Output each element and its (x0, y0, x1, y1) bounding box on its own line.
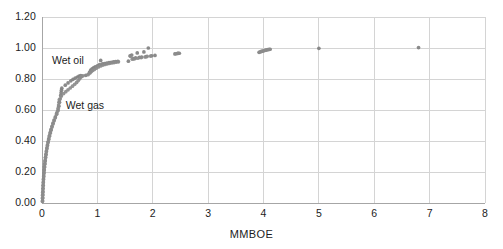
data-point (417, 46, 421, 50)
data-point (176, 51, 180, 55)
data-point (127, 59, 131, 63)
x-axis-tick-label: 5 (310, 207, 328, 219)
data-point (45, 147, 49, 151)
x-axis-tick-label: 1 (88, 207, 106, 219)
y-axis-tick-label: 1.00 (2, 41, 36, 53)
y-axis-tick-label: 0.80 (2, 72, 36, 84)
x-axis-tick-label: 7 (421, 207, 439, 219)
data-point (145, 55, 149, 59)
data-point (81, 74, 85, 78)
y-axis-tick-label: 0.40 (2, 134, 36, 146)
footer-caption-fragment (0, 243, 503, 249)
data-point (44, 153, 48, 157)
data-point (45, 150, 49, 154)
x-axis-tick-label: 0 (33, 207, 51, 219)
data-point (267, 48, 271, 52)
annotation-wet-gas: Wet gas (66, 99, 104, 111)
data-point (139, 56, 143, 60)
data-point (47, 138, 51, 142)
y-axis-tick-label: 0.20 (2, 165, 36, 177)
data-point (142, 50, 146, 54)
data-point (146, 46, 150, 50)
data-point (46, 144, 50, 148)
scatter-chart: 0.000.200.400.600.801.001.20 012345678 W… (0, 0, 503, 249)
data-point (317, 46, 321, 50)
x-axis-title: MMBOE (0, 228, 503, 240)
data-point (57, 98, 61, 102)
data-point (117, 60, 121, 64)
data-point (149, 54, 153, 58)
series-wet-gas (41, 48, 271, 204)
y-axis-tick-label: 0.60 (2, 103, 36, 115)
data-point (99, 59, 103, 63)
y-axis-tick-label: 1.20 (2, 10, 36, 22)
annotation-wet-oil: Wet oil (52, 54, 84, 66)
data-point (153, 54, 157, 58)
x-axis-tick-label: 8 (476, 207, 494, 219)
data-point (46, 141, 50, 145)
data-point (44, 156, 48, 160)
x-axis-tick-label: 2 (144, 207, 162, 219)
y-axis-tick-label: 0.00 (2, 196, 36, 208)
data-point (48, 135, 52, 139)
data-point (135, 51, 139, 55)
x-axis-tick-label: 4 (255, 207, 273, 219)
x-axis-tick-label: 6 (365, 207, 383, 219)
data-point (56, 106, 60, 110)
data-point (48, 131, 52, 135)
data-point (60, 86, 64, 90)
x-axis-tick-label: 3 (199, 207, 217, 219)
data-point (133, 57, 137, 61)
data-point (136, 56, 140, 60)
data-point (53, 116, 57, 120)
data-point (56, 109, 60, 113)
